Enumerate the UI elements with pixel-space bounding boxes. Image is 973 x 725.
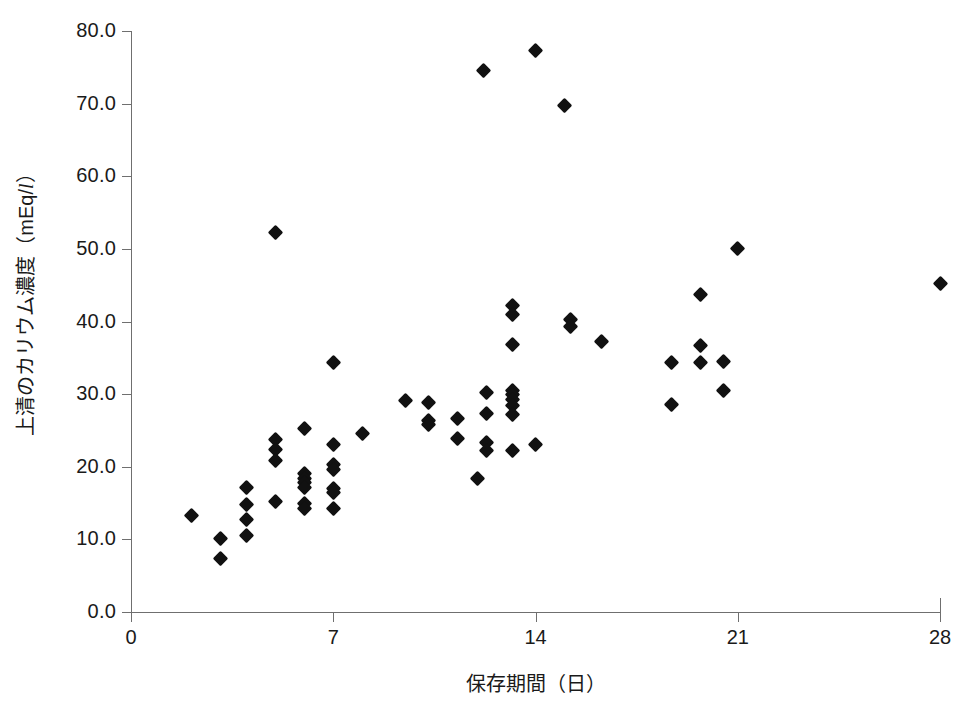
y-axis-title-prefix: 上清のカリウム濃度（mEq/ — [15, 189, 37, 436]
data-point — [325, 500, 341, 516]
scatter-plot-figure: 0.010.020.030.040.050.060.070.080.0 0714… — [0, 0, 973, 725]
y-axis-tick-label-text: 80.0 — [76, 19, 116, 42]
data-point — [239, 497, 255, 513]
data-point — [528, 43, 544, 59]
data-point — [716, 354, 732, 370]
data-point — [664, 354, 680, 370]
x-axis-tick — [333, 612, 334, 622]
data-point — [476, 62, 492, 78]
data-point — [557, 98, 573, 114]
x-axis-tick-label: 28 — [910, 626, 970, 649]
data-point — [421, 394, 437, 410]
data-point — [505, 407, 521, 423]
data-point — [239, 511, 255, 527]
y-axis-tick-label-text: 70.0 — [76, 92, 116, 115]
y-axis-tick — [122, 31, 131, 32]
y-axis-tick-label: 0.0 — [0, 600, 116, 624]
x-axis-title: 保存期間（日） — [131, 668, 941, 697]
data-point — [505, 337, 521, 353]
data-point — [239, 527, 255, 543]
y-axis-tick-label-text: 50.0 — [76, 237, 116, 260]
data-point — [450, 431, 466, 447]
x-axis-tick — [738, 612, 739, 622]
x-axis-tick — [940, 612, 941, 622]
data-point — [505, 306, 521, 322]
data-point — [268, 225, 284, 241]
y-axis-tick-label-text: 40.0 — [76, 310, 116, 333]
data-point — [692, 287, 708, 303]
y-axis-tick — [122, 467, 131, 468]
data-point — [354, 426, 370, 442]
y-axis-tick — [122, 104, 131, 105]
data-point — [239, 480, 255, 496]
data-point — [325, 436, 341, 452]
x-axis-tick — [536, 612, 537, 622]
data-point — [528, 437, 544, 453]
y-axis-tick-label-text: 10.0 — [76, 527, 116, 550]
x-axis-tick-label: 14 — [506, 626, 566, 649]
y-axis-tick — [122, 394, 131, 395]
data-point — [268, 452, 284, 468]
data-point — [325, 354, 341, 370]
data-point — [730, 240, 746, 256]
data-point — [213, 550, 229, 566]
y-axis-tick — [122, 612, 131, 613]
data-point — [398, 393, 414, 409]
data-point — [184, 508, 200, 524]
x-axis-end-tick — [940, 598, 941, 613]
y-axis-title: 上清のカリウム濃度（mEq/l） — [10, 20, 39, 580]
y-axis-tick — [122, 249, 131, 250]
x-axis-tick-label: 21 — [708, 626, 768, 649]
y-axis-tick-label-text: 60.0 — [76, 164, 116, 187]
y-axis-title-suffix: ） — [15, 163, 37, 183]
x-axis-tick — [131, 612, 132, 622]
data-point — [594, 333, 610, 349]
data-point — [470, 471, 486, 487]
data-point — [213, 531, 229, 547]
y-axis-tick — [122, 322, 131, 323]
y-axis-tick-label-text: 0.0 — [88, 600, 116, 623]
data-point — [450, 410, 466, 426]
x-axis-tick-label: 0 — [101, 626, 161, 649]
data-point — [479, 405, 495, 421]
data-point — [268, 494, 284, 510]
y-axis-tick-label-text: 20.0 — [76, 455, 116, 478]
y-axis-title-unit-italic: l — [15, 183, 37, 189]
data-point — [505, 443, 521, 459]
y-axis-tick — [122, 539, 131, 540]
plot-area — [131, 31, 940, 612]
x-axis-tick-label: 7 — [303, 626, 363, 649]
y-axis-tick-label-text: 30.0 — [76, 382, 116, 405]
data-point — [297, 421, 313, 437]
data-point — [692, 354, 708, 370]
data-point — [664, 397, 680, 413]
data-point — [479, 385, 495, 401]
data-point — [692, 338, 708, 354]
y-axis-tick — [122, 176, 131, 177]
data-point — [932, 275, 948, 291]
data-point — [716, 383, 732, 399]
